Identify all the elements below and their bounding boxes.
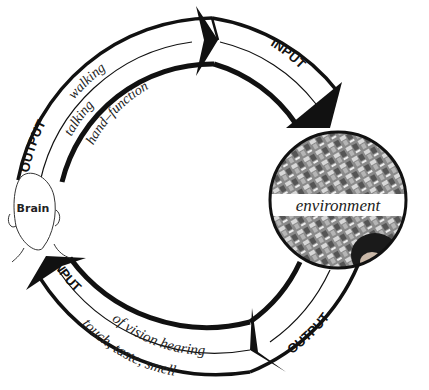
environment-label: environment <box>296 196 382 215</box>
brain-head: Brain <box>8 173 70 262</box>
environment-circle: environment <box>260 130 420 277</box>
brain-environment-loop-diagram: environment Brain OUTPUT walking talking… <box>0 0 429 390</box>
output-label-bottom-right: OUTPUT <box>284 310 332 357</box>
brain-label: Brain <box>17 202 50 215</box>
output-arrow-bottom-right <box>250 262 358 372</box>
